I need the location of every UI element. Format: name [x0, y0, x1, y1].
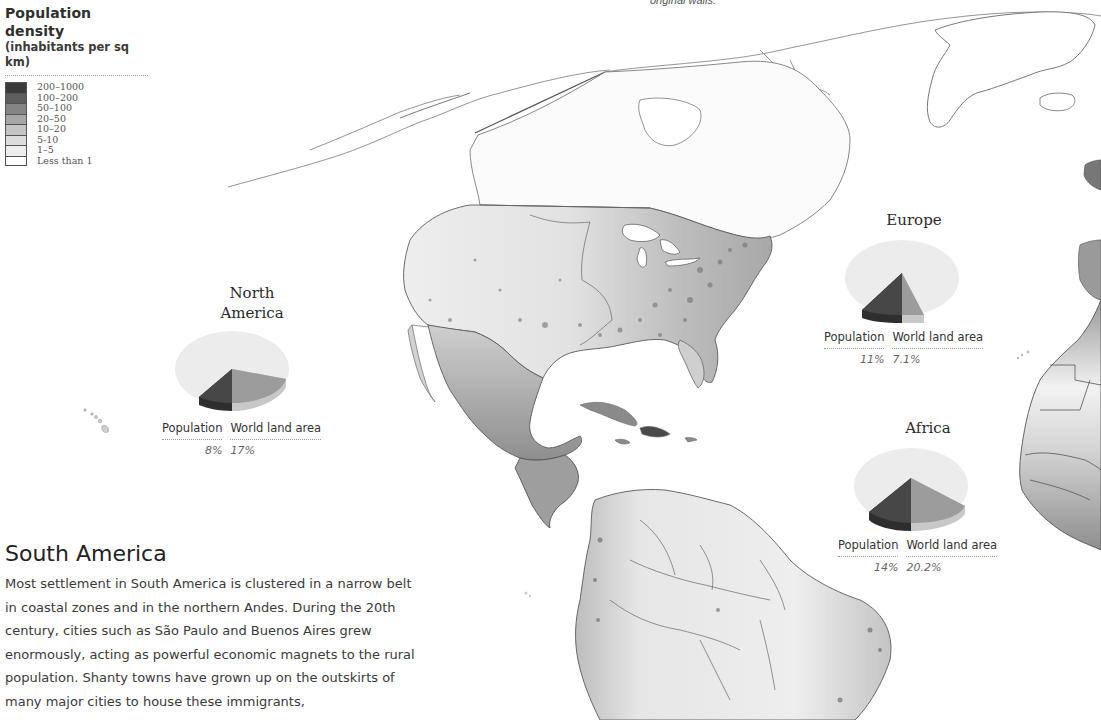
legend-subtitle: (inhabitants per sq km) [5, 40, 155, 70]
legend-swatch [5, 135, 27, 146]
legend-item: 20–50 [5, 114, 155, 125]
region-title-line: America [162, 303, 342, 323]
pie-chart-africa [853, 446, 973, 536]
land-area-stat: World land area 20.2% [906, 538, 997, 574]
density-legend: Population density (inhabitants per sq k… [5, 4, 155, 166]
legend-item: Less than 1 [5, 156, 155, 167]
legend-label: 100–200 [37, 93, 78, 103]
stat-labels: Population 14% World land area 20.2% [838, 538, 1018, 574]
legend-label: 50–100 [37, 103, 72, 113]
legend-divider [5, 75, 148, 76]
legend-swatch [5, 145, 27, 156]
legend-label: Less than 1 [37, 156, 92, 166]
hawaii-islands [84, 409, 109, 433]
population-label: Population [838, 538, 898, 557]
legend-swatch [5, 114, 27, 125]
population-value: 11% [824, 353, 884, 366]
caribbean-islands [580, 402, 697, 444]
land-area-stat: World land area 7.1% [892, 330, 983, 366]
iceland-outline [1040, 93, 1075, 111]
population-stat: Population 14% [838, 538, 898, 574]
region-north-america: North America Population 8% World land a… [162, 283, 342, 457]
legend-swatch [5, 124, 27, 135]
region-title: Africa [838, 418, 1018, 438]
land-area-label: World land area [906, 538, 997, 557]
population-stat: Population 11% [824, 330, 884, 366]
pie-chart-north-america [174, 329, 294, 419]
legend-label: 200–1000 [37, 82, 84, 92]
population-stat: Population 8% [162, 421, 222, 457]
population-label: Population [824, 330, 884, 349]
land-area-value: 7.1% [892, 353, 983, 366]
land-area-label: World land area [230, 421, 321, 440]
stat-labels: Population 11% World land area 7.1% [824, 330, 1004, 366]
greenland-outline [927, 12, 1095, 127]
legend-item: 200–1000 [5, 82, 155, 93]
region-title-line: North [162, 283, 342, 303]
population-value: 14% [838, 561, 898, 574]
legend-label: 5-10 [37, 135, 58, 145]
south-america-article: South America Most settlement in South A… [5, 540, 425, 713]
legend-item: 5-10 [5, 135, 155, 146]
legend-item: 50–100 [5, 103, 155, 114]
british-isles [1084, 160, 1101, 190]
legend-swatch [5, 93, 27, 104]
population-value: 8% [162, 444, 222, 457]
legend-label: 20–50 [37, 114, 66, 124]
legend-swatch [5, 156, 27, 167]
iberia [1079, 240, 1101, 300]
land-area-value: 17% [230, 444, 321, 457]
stat-labels: Population 8% World land area 17% [162, 421, 342, 457]
land-area-stat: World land area 17% [230, 421, 321, 457]
pie-chart-europe [844, 238, 964, 328]
article-heading: South America [5, 540, 425, 568]
article-body: Most settlement in South America is clus… [5, 572, 425, 713]
central-america [515, 455, 578, 528]
region-title: North America [162, 283, 342, 323]
region-europe: Europe Population 11% World land area 7.… [824, 210, 1004, 366]
legend-label: 1–5 [37, 145, 54, 155]
legend-title: Population density [5, 4, 155, 40]
population-label: Population [162, 421, 222, 440]
land-area-label: World land area [892, 330, 983, 349]
legend-swatch [5, 103, 27, 114]
cape-verde-islands [1017, 351, 1030, 360]
legend-item: 10–20 [5, 124, 155, 135]
land-area-value: 20.2% [906, 561, 997, 574]
caption-fragment: original walls. [650, 0, 716, 6]
legend-swatch [5, 82, 27, 93]
legend-label: 10–20 [37, 124, 66, 134]
legend-item: 100–200 [5, 93, 155, 104]
region-africa: Africa Population 14% World land area 20… [838, 418, 1018, 574]
west-africa [1020, 300, 1101, 550]
legend-item: 1–5 [5, 145, 155, 156]
region-title: Europe [824, 210, 1004, 230]
galapagos-islands [525, 592, 532, 598]
